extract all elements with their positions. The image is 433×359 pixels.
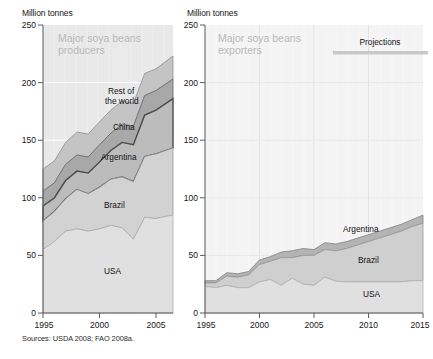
xtick-2000-right: 2000	[250, 320, 269, 330]
ytick-100: 100	[22, 193, 36, 203]
xtick-2005: 2005	[147, 320, 166, 330]
projections-bar	[333, 51, 428, 55]
series-label-rest-of-world-2: the world	[105, 96, 139, 106]
panel-producers: Million tonnes	[0, 0, 190, 359]
ytick-150-right: 150	[184, 135, 198, 145]
ytick-250-right: 250	[184, 20, 198, 30]
panel-title-line1-left: Major soya beans	[58, 32, 141, 44]
x-axis-ticks-right: 1995 2000 2005 2010 2015	[197, 320, 430, 330]
series-label-brazil-export: Brazil	[358, 255, 379, 265]
chart-exporters: 250 200 150 100 50 0 1995 2000 2005 2010…	[183, 0, 433, 340]
chart-producers: 250 200 150 100 50 0 1995 2000 2005 Majo…	[0, 0, 190, 340]
source-note: Sources: USDA 2008; FAO 2008a.	[22, 334, 134, 343]
ytick-0-right: 0	[193, 308, 198, 318]
xtick-2010-right: 2010	[359, 320, 378, 330]
x-axis-ticks-left: 1995 2000 2005	[35, 320, 166, 330]
xtick-2015-right: 2015	[411, 320, 430, 330]
y-axis-ticks-left: 250 200 150 100 50 0	[22, 20, 36, 318]
y-axis-unit-label-left: Million tonnes	[22, 8, 73, 18]
ytick-250: 250	[22, 20, 36, 30]
panel-title-line2-left: producers	[58, 44, 105, 56]
panel-title-line2-right: exporters	[218, 44, 262, 56]
ytick-50-right: 50	[189, 250, 199, 260]
ytick-50: 50	[27, 250, 37, 260]
xtick-2005-right: 2005	[305, 320, 324, 330]
ytick-200: 200	[22, 78, 36, 88]
series-label-usa-export: USA	[363, 289, 381, 299]
xtick-2000: 2000	[90, 320, 109, 330]
series-label-brazil: Brazil	[104, 200, 125, 210]
soya-beans-figure: Million tonnes	[0, 0, 433, 359]
xtick-1995: 1995	[35, 320, 54, 330]
series-label-china: China	[113, 122, 135, 132]
ytick-200-right: 200	[184, 78, 198, 88]
ytick-100-right: 100	[184, 193, 198, 203]
projections-label: Projections	[359, 37, 400, 47]
y-axis-ticks-right: 250 200 150 100 50 0	[184, 20, 198, 318]
ytick-150: 150	[22, 135, 36, 145]
panel-title-line1-right: Major soya beans	[218, 32, 301, 44]
y-axis-unit-label-right: Million tonnes	[187, 8, 238, 18]
series-label-rest-of-world-1: Rest of	[108, 86, 135, 96]
ytick-0: 0	[31, 308, 36, 318]
series-label-argentina: Argentina	[101, 152, 137, 162]
series-label-argentina-export: Argentina	[343, 224, 379, 234]
panel-exporters: Million tonnes	[183, 0, 433, 359]
xtick-1995-right: 1995	[197, 320, 216, 330]
series-label-usa: USA	[104, 266, 122, 276]
